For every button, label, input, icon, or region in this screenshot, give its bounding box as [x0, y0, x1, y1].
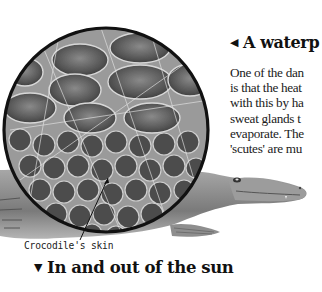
section-heading-text: A waterp	[243, 33, 319, 52]
body-line: is that the heat	[230, 80, 304, 95]
next-section-heading-text: In and out of the sun	[47, 258, 233, 277]
left-arrow-icon: ◀	[230, 36, 238, 49]
down-arrow-icon: ▼	[34, 261, 42, 274]
figure-caption: Crocodile's skin	[24, 240, 113, 251]
body-paragraph: One of the dan is that the heat with thi…	[230, 65, 304, 156]
section-heading: ◀A waterp	[230, 33, 319, 52]
next-section-heading: ▼In and out of the sun	[34, 258, 233, 277]
body-line: evaporate. The	[230, 126, 304, 141]
body-line: 'scutes' are mu	[230, 141, 304, 156]
body-line: sweat glands t	[230, 111, 304, 126]
body-line: One of the dan	[230, 65, 304, 80]
body-line: with this by ha	[230, 95, 304, 110]
